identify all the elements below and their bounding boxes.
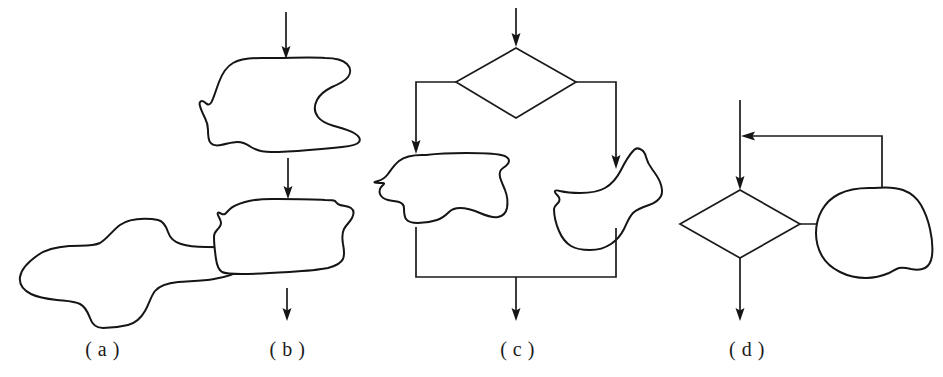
panel-caption-a: ( a ) <box>0 338 205 361</box>
blob-shape-b1 <box>200 58 360 152</box>
panel-caption-c: ( c ) <box>440 338 595 361</box>
branch-left-connector-c <box>416 82 456 146</box>
figure-container: ( a ) ( b ) ( c ) ( d ) <box>0 0 943 377</box>
decision-diamond-d <box>680 190 800 258</box>
branch-right-connector-c <box>576 82 616 161</box>
panel-caption-d: ( d ) <box>672 338 822 361</box>
panel-caption-b: ( b ) <box>200 338 375 361</box>
panel-c-group <box>374 8 662 321</box>
loop-feedback-connector-d <box>752 136 882 190</box>
blob-shape-c-right <box>554 148 662 250</box>
blob-shape-b2 <box>214 199 353 274</box>
blob-shape-d <box>816 187 932 278</box>
figure-drawing <box>0 0 943 377</box>
blob-shape-c-left <box>374 153 509 223</box>
panel-d-group <box>680 100 932 321</box>
decision-diamond-c <box>456 48 576 118</box>
